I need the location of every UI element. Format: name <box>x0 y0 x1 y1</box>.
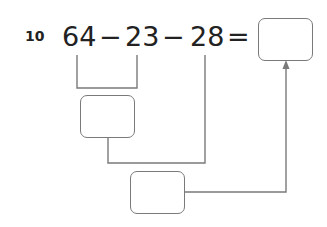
answer-box-step1[interactable] <box>80 95 135 138</box>
answer-box-step2[interactable] <box>130 171 185 214</box>
answer-box-final[interactable] <box>258 18 313 61</box>
arrow-head-icon <box>283 60 290 69</box>
